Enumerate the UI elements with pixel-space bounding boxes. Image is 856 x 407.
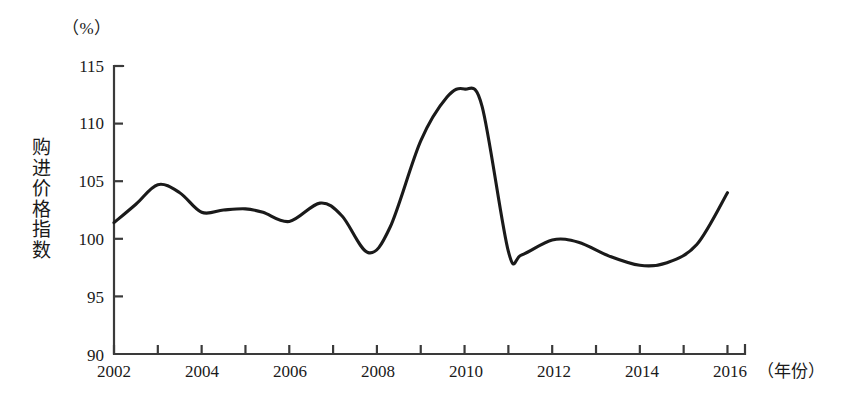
data-series-purchase-price-index [114, 88, 727, 266]
purchase-price-index-chart: （%） 购进价格指数 115 110 105 100 95 90 2002 20… [0, 0, 856, 407]
axis-ticks [114, 66, 727, 354]
axis-lines [114, 66, 745, 354]
chart-plot-area [0, 0, 856, 407]
